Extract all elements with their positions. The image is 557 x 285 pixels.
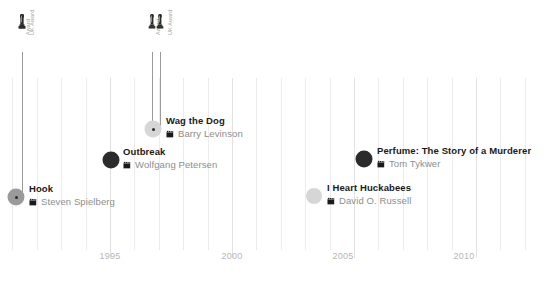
timeline-entry[interactable]: HookSteven Spielberg [29,183,115,208]
entry-director-row: Steven Spielberg [29,196,115,208]
marker-center-dot [152,128,155,131]
movie-marker-outbreak[interactable] [103,152,120,169]
gridline-minor [12,78,13,250]
entry-director-row: Tom Tykwer [377,158,531,170]
gridline-minor [281,78,282,250]
movie-marker-wag-the-dog[interactable] [145,121,162,138]
timeline-entry[interactable]: Perfume: The Story of a MurdererTom Tykw… [377,145,531,170]
gridline-minor [86,78,87,250]
clapperboard-icon [123,161,131,169]
entry-director-row: David O. Russell [327,195,411,207]
axis-tick-label: 2010 [453,251,474,261]
gridline-minor [37,78,38,250]
axis-tick-label: 1995 [99,251,120,261]
entry-director-row: Barry Levinson [166,128,243,140]
entry-director: Steven Spielberg [41,196,115,208]
entry-title: Outbreak [123,146,217,158]
timeline-entry[interactable]: Wag the DogBarry Levinson [166,115,243,140]
entry-title: Wag the Dog [166,115,243,127]
axis-tick-label: 2005 [332,251,353,261]
entry-director-row: Wolfgang Petersen [123,159,217,171]
axis-tick-label: 2000 [221,251,242,261]
award-stem [152,52,153,128]
entry-title: I Heart Huckabees [327,182,411,194]
timeline-entry[interactable]: OutbreakWolfgang Petersen [123,146,217,171]
entry-director: Barry Levinson [178,128,243,140]
gridline-minor [330,78,331,250]
clapperboard-icon [166,130,174,138]
award-trophy-icon [18,14,27,31]
entry-director: Wolfgang Petersen [135,159,217,171]
clapperboard-icon [327,197,335,205]
timeline-chart: AwardUK AwardAwardUK Award HookSteven Sp… [0,0,557,285]
entry-title: Hook [29,183,115,195]
clapperboard-icon [377,160,385,168]
gridline-minor [305,78,306,250]
entry-director: Tom Tykwer [389,158,441,170]
movie-marker-huckabees[interactable] [306,188,322,204]
clapperboard-icon [29,198,37,206]
gridline-minor [61,78,62,250]
gridline-minor [256,78,257,250]
timeline-entry[interactable]: I Heart HuckabeesDavid O. Russell [327,182,411,207]
gridline-major [354,78,355,258]
award-stem [22,52,23,196]
gridline-major [232,78,233,258]
marker-center-dot [15,196,18,199]
award-stem [160,52,161,128]
entry-title: Perfume: The Story of a Murderer [377,145,531,157]
entry-director: David O. Russell [339,195,411,207]
movie-marker-hook[interactable] [8,189,25,206]
award-label: UK Award [29,10,35,35]
award-label: UK Award [167,10,173,35]
award-trophy-icon [156,14,165,31]
movie-marker-perfume[interactable] [356,151,373,168]
